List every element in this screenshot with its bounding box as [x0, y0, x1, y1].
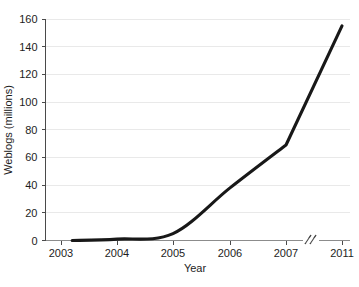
x-tick-label: 2006	[218, 247, 242, 259]
y-tick-label: 120	[19, 68, 37, 80]
x-tick-label: 2004	[105, 247, 129, 259]
x-tick-label: 2005	[161, 247, 185, 259]
x-tick-label: 2007	[274, 247, 298, 259]
chart-canvas: 020406080100120140160 200320042005200620…	[0, 0, 359, 287]
y-tick-label: 0	[31, 235, 37, 247]
y-tick-label: 160	[19, 13, 37, 25]
y-tick-label: 80	[25, 124, 37, 136]
y-axis-title: Weblogs (millions)	[2, 85, 14, 175]
x-axis-title: Year	[184, 262, 207, 274]
y-tick-label: 40	[25, 179, 37, 191]
y-tick-label: 100	[19, 96, 37, 108]
x-tick-label: 2003	[49, 247, 73, 259]
y-tick-label: 60	[25, 151, 37, 163]
y-tick-label: 20	[25, 207, 37, 219]
x-tick-label: 2011	[330, 247, 354, 259]
y-tick-label: 140	[19, 41, 37, 53]
line-chart: 020406080100120140160 200320042005200620…	[0, 0, 359, 287]
